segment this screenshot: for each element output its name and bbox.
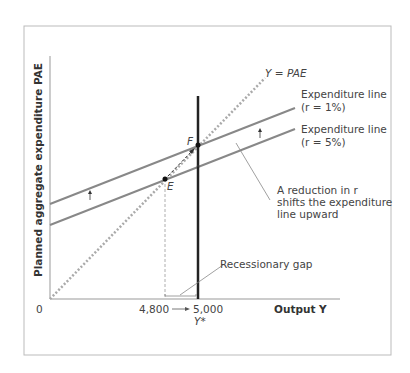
point-f (196, 143, 201, 148)
label-ypae: Y = PAE (265, 67, 307, 79)
expenditure-line-r5 (50, 129, 295, 225)
annot-leader (236, 143, 270, 200)
x-axis-label: Output Y (274, 303, 327, 315)
origin-label: 0 (36, 303, 43, 315)
gap-leader (180, 265, 223, 295)
label-exp5-b: (r = 5%) (301, 136, 346, 148)
tick-4800: 4,800 (139, 303, 169, 315)
tick-5000: 5,000 (193, 303, 223, 315)
annot-3: line upward (277, 208, 338, 220)
chart: E F Y = PAE Expenditure line (r = 1%) Ex… (0, 0, 410, 373)
label-exp1-a: Expenditure line (301, 88, 387, 100)
label-e: E (167, 180, 174, 192)
label-exp1-b: (r = 1%) (301, 101, 346, 113)
annot-2: shifts the expenditure (277, 196, 392, 208)
ystar-label: Y* (194, 315, 206, 327)
gap-label: Recessionary gap (220, 258, 313, 270)
label-exp5-a: Expenditure line (301, 123, 387, 135)
annot-1: A reduction in r (277, 184, 359, 196)
y-axis-label: Planned aggregate expenditure PAE (32, 63, 44, 277)
label-f: F (187, 135, 194, 147)
